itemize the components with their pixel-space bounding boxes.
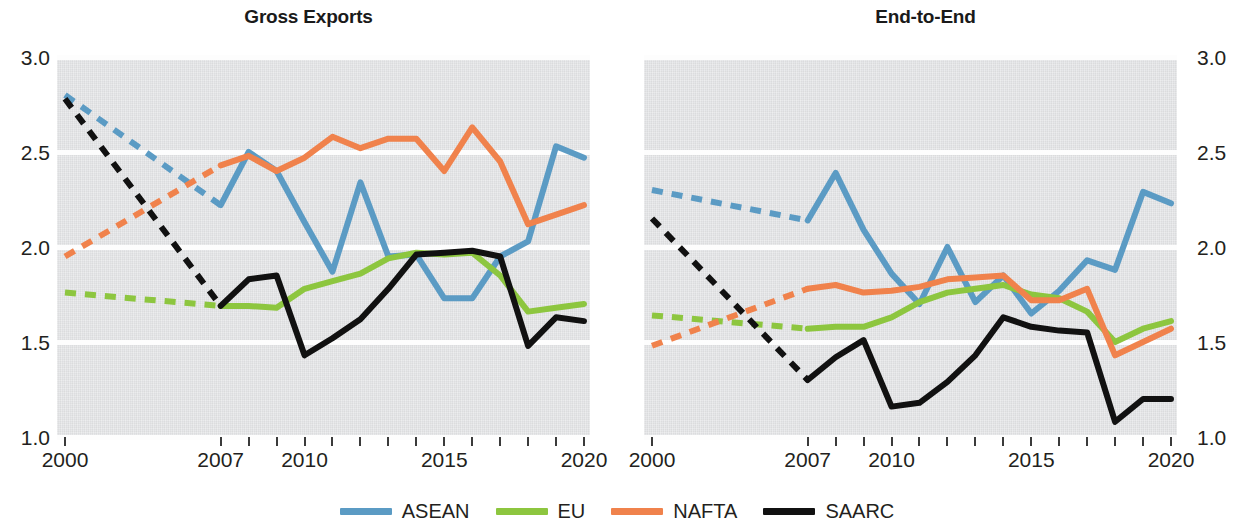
x-axis-tick bbox=[835, 437, 837, 446]
x-axis-tick-label: 2010 bbox=[281, 448, 328, 471]
series-line-saarc bbox=[808, 317, 1171, 422]
x-axis-tick bbox=[863, 437, 865, 446]
x-axis-tick bbox=[331, 437, 333, 446]
panel-title: End-to-End bbox=[617, 6, 1234, 28]
x-axis-ticks bbox=[57, 437, 590, 447]
x-axis-tick bbox=[220, 437, 222, 446]
x-axis-labels: 20002007201020152020 bbox=[644, 448, 1177, 478]
y-axis-tick-label: 1.0 bbox=[0, 427, 50, 448]
legend-label: ASEAN bbox=[402, 501, 470, 521]
x-axis-tick-label: 2007 bbox=[784, 448, 831, 471]
x-axis-tick bbox=[583, 437, 585, 446]
x-axis-tick bbox=[64, 437, 66, 446]
plot-area bbox=[57, 57, 590, 437]
series-line-dashed-eu bbox=[65, 293, 221, 306]
legend-item[interactable]: EU bbox=[496, 501, 586, 521]
y-axis-labels: 1.01.52.02.53.0 bbox=[1185, 57, 1234, 437]
plot-area bbox=[644, 57, 1177, 437]
y-axis-tick-label: 2.5 bbox=[0, 142, 50, 163]
x-axis-tick bbox=[651, 437, 653, 446]
x-axis-labels: 20002007201020152020 bbox=[57, 448, 590, 478]
series-line-dashed-nafta bbox=[65, 165, 221, 256]
x-axis-tick bbox=[555, 437, 557, 446]
series-line-nafta bbox=[221, 127, 584, 224]
y-axis-tick-label: 3.0 bbox=[0, 47, 50, 68]
x-axis-tick-label: 2010 bbox=[868, 448, 915, 471]
x-axis-tick bbox=[415, 437, 417, 446]
x-axis-tick bbox=[891, 437, 893, 446]
x-axis-tick bbox=[471, 437, 473, 446]
series-line-dashed-saarc bbox=[65, 99, 221, 306]
series-line-dashed-asean bbox=[65, 95, 221, 205]
x-axis-tick bbox=[276, 437, 278, 446]
x-axis-tick-label: 2007 bbox=[197, 448, 244, 471]
x-axis-tick bbox=[946, 437, 948, 446]
x-axis-tick bbox=[1142, 437, 1144, 446]
x-axis-tick bbox=[527, 437, 529, 446]
x-axis-tick-label: 2015 bbox=[1008, 448, 1055, 471]
panel-title: Gross Exports bbox=[0, 6, 617, 28]
series-line-saarc bbox=[221, 251, 584, 355]
x-axis-tick bbox=[1002, 437, 1004, 446]
legend-swatch-asean bbox=[340, 508, 392, 515]
y-axis-labels: 1.01.52.02.53.0 bbox=[0, 57, 50, 437]
x-axis-tick bbox=[807, 437, 809, 446]
legend-label: NAFTA bbox=[673, 501, 737, 521]
x-axis-tick bbox=[304, 437, 306, 446]
y-axis-tick-label: 3.0 bbox=[1197, 47, 1234, 68]
x-axis-tick bbox=[918, 437, 920, 446]
chart-panel-gross-exports: Gross Exports 1.01.52.02.53.0 2000200720… bbox=[0, 0, 617, 492]
y-axis-tick-label: 1.0 bbox=[1197, 427, 1234, 448]
x-axis-tick bbox=[1030, 437, 1032, 446]
legend-label: SAARC bbox=[825, 501, 894, 521]
legend-swatch-eu bbox=[496, 508, 548, 515]
x-axis-ticks bbox=[644, 437, 1177, 447]
chart-panel-end-to-end: End-to-End 1.01.52.02.53.0 2000200720102… bbox=[617, 0, 1234, 492]
series-line-dashed-asean bbox=[652, 190, 808, 220]
x-axis-tick bbox=[443, 437, 445, 446]
series-line-eu bbox=[221, 253, 584, 312]
x-axis-tick-label: 2000 bbox=[629, 448, 676, 471]
x-axis-tick bbox=[499, 437, 501, 446]
x-axis-tick bbox=[359, 437, 361, 446]
chart-legend: ASEANEUNAFTASAARC bbox=[0, 492, 1234, 530]
y-axis-tick-label: 2.0 bbox=[1197, 237, 1234, 258]
x-axis-tick-label: 2000 bbox=[42, 448, 89, 471]
legend-label: EU bbox=[558, 501, 586, 521]
chart-figure: Gross Exports 1.01.52.02.53.0 2000200720… bbox=[0, 0, 1234, 530]
legend-item[interactable]: ASEAN bbox=[340, 501, 470, 521]
x-axis-tick-label: 2020 bbox=[1148, 448, 1195, 471]
y-axis-tick-label: 1.5 bbox=[1197, 332, 1234, 353]
series-layer bbox=[57, 57, 590, 437]
legend-swatch-saarc bbox=[763, 508, 815, 515]
y-axis-tick-label: 2.5 bbox=[1197, 142, 1234, 163]
x-axis-tick bbox=[387, 437, 389, 446]
y-axis-tick-label: 2.0 bbox=[0, 237, 50, 258]
x-axis-tick bbox=[1086, 437, 1088, 446]
legend-swatch-nafta bbox=[611, 508, 663, 515]
x-axis-tick bbox=[1058, 437, 1060, 446]
series-layer bbox=[644, 57, 1177, 437]
x-axis-tick-label: 2020 bbox=[561, 448, 608, 471]
x-axis-tick bbox=[1114, 437, 1116, 446]
x-axis-tick bbox=[248, 437, 250, 446]
x-axis-tick bbox=[1170, 437, 1172, 446]
legend-item[interactable]: NAFTA bbox=[611, 501, 737, 521]
x-axis-tick bbox=[974, 437, 976, 446]
y-axis-tick-label: 1.5 bbox=[0, 332, 50, 353]
x-axis-tick-label: 2015 bbox=[421, 448, 468, 471]
legend-item[interactable]: SAARC bbox=[763, 501, 894, 521]
